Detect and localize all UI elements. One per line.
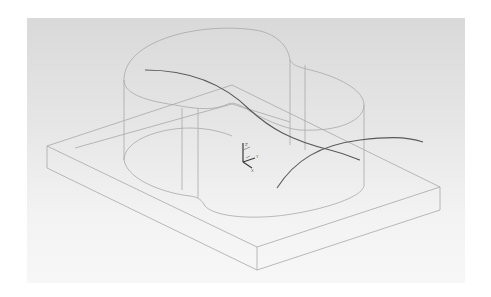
spline-curve-2[interactable]: [277, 138, 423, 188]
3d-viewport[interactable]: Z Y X: [27, 18, 465, 283]
base-slab[interactable]: [47, 85, 440, 270]
triad-label-z: Z: [245, 142, 248, 147]
axis-triad: Z Y X: [243, 142, 259, 173]
triad-label-y: Y: [255, 154, 259, 159]
triad-label-x: X: [251, 168, 254, 173]
spline-curve-1[interactable]: [145, 70, 360, 160]
